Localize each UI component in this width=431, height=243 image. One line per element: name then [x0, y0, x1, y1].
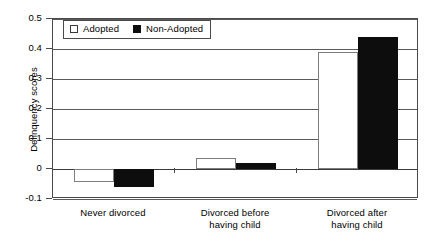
open-square-icon: [70, 25, 78, 33]
x-category-label: Divorced afterhaving child: [296, 207, 418, 230]
x-category-label: Never divorced: [52, 207, 174, 219]
plot-area: [52, 18, 418, 198]
y-tick-label: 0.1: [0, 133, 42, 143]
y-tick-label: 0.4: [0, 43, 42, 53]
bar-non-adopted: [114, 169, 154, 187]
legend-entry-adopted: Adopted: [70, 24, 119, 34]
y-tick-mark: [46, 198, 52, 199]
filled-square-icon: [133, 25, 141, 33]
chart-legend: Adopted Non-Adopted: [63, 20, 211, 39]
y-tick-label: 0.3: [0, 73, 42, 83]
bar-adopted: [74, 169, 114, 182]
x-tick-mark: [296, 168, 297, 173]
bar-adopted: [196, 158, 236, 169]
y-tick-label: 0.5: [0, 13, 42, 23]
gridline: [53, 199, 417, 200]
bar-adopted: [318, 52, 358, 169]
legend-label-non-adopted: Non-Adopted: [146, 24, 203, 34]
x-category-label: Divorced beforehaving child: [174, 207, 296, 230]
legend-entry-non-adopted: Non-Adopted: [133, 24, 203, 34]
y-tick-label: 0.2: [0, 103, 42, 113]
y-tick-label: -0.1: [0, 193, 42, 203]
legend-label-adopted: Adopted: [83, 24, 119, 34]
bar-non-adopted: [358, 37, 398, 169]
bar-non-adopted: [236, 163, 276, 169]
y-tick-label: 0: [0, 163, 42, 173]
delinquency-scores-bar-chart: Delinquency scores 0.50.40.30.20.10-0.1 …: [0, 0, 431, 243]
x-tick-mark: [174, 168, 175, 173]
